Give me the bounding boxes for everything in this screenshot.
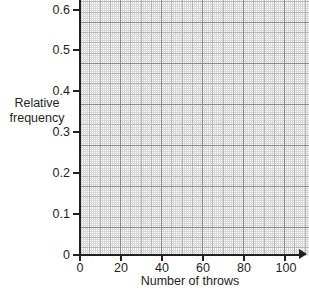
x-axis-arrowhead-icon — [299, 249, 307, 259]
x-tick-label-100: 100 — [276, 262, 297, 275]
y-tick-0.1 — [73, 213, 80, 215]
y-tick-0.3 — [73, 131, 80, 133]
y-tick-label-0.1: 0.1 — [53, 208, 70, 221]
y-tick-label-0.5: 0.5 — [53, 44, 70, 57]
y-tick-0.2 — [73, 172, 80, 174]
x-tick-label-80: 80 — [237, 262, 251, 275]
x-tick-label-60: 60 — [196, 262, 210, 275]
y-tick-0.5 — [73, 49, 80, 51]
relative-frequency-chart: 0 0.1 0.2 0.3 0.4 0.5 0.6 0 20 40 60 80 … — [0, 0, 309, 291]
x-tick-label-0: 0 — [77, 262, 84, 275]
y-axis-title-line1: Relative — [4, 96, 70, 111]
y-tick-0.6 — [73, 9, 80, 11]
y-axis-title: Relative frequency — [4, 96, 70, 126]
x-tick-label-40: 40 — [155, 262, 169, 275]
y-tick-label-0.6: 0.6 — [53, 4, 70, 17]
y-axis-line — [79, 0, 81, 256]
y-tick-0.4 — [73, 90, 80, 92]
x-axis-line — [79, 254, 301, 256]
y-axis-title-line2: frequency — [4, 111, 70, 126]
y-tick-label-0.3: 0.3 — [53, 126, 70, 139]
x-tick-label-20: 20 — [114, 262, 128, 275]
y-tick-label-0: 0 — [63, 249, 70, 262]
graph-paper-grid — [79, 0, 309, 256]
y-tick-label-0.2: 0.2 — [53, 167, 70, 180]
x-axis-title: Number of throws — [79, 275, 301, 288]
